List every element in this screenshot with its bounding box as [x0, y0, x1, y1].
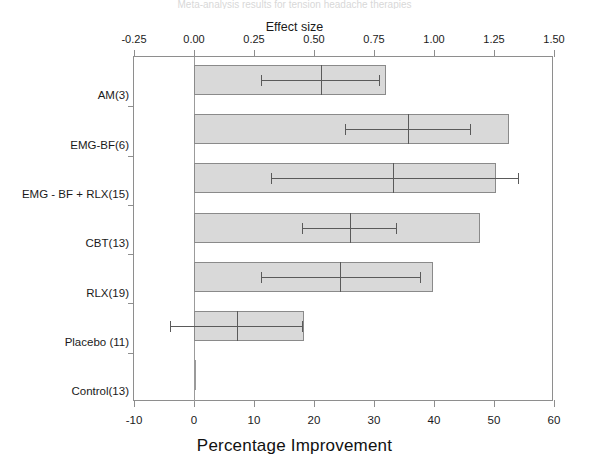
error-bar-line	[271, 178, 518, 179]
effect-size-marker	[340, 262, 341, 292]
effect-size-marker	[393, 163, 394, 193]
top-tick-label: 0.75	[363, 33, 384, 45]
top-tick-label: 1.25	[483, 33, 504, 45]
plot-area: -0.250.000.250.500.751.001.251.50 -10010…	[133, 56, 553, 401]
bottom-tick-label: 60	[548, 414, 561, 426]
error-bar-cap	[302, 321, 303, 332]
bottom-tick-mark	[374, 400, 375, 407]
top-tick-mark	[554, 50, 555, 57]
top-tick-mark	[194, 50, 195, 57]
y-tick-mark	[128, 303, 134, 304]
figure-title: Meta-analysis results for tension headac…	[0, 0, 589, 9]
bottom-tick-mark	[314, 400, 315, 407]
error-bar-cap	[170, 321, 171, 332]
top-tick-label: 0.50	[303, 33, 324, 45]
y-axis-category-label: EMG - BF + RLX(15)	[1, 188, 129, 200]
error-bar-cap	[261, 272, 262, 283]
y-axis-category-label: Placebo (11)	[1, 336, 129, 348]
top-tick-label: 1.50	[543, 33, 564, 45]
y-tick-mark	[128, 254, 134, 255]
y-tick-mark	[128, 205, 134, 206]
bottom-tick-label: -10	[126, 414, 143, 426]
error-bar-cap	[271, 173, 272, 184]
error-bar-cap	[302, 223, 303, 234]
error-bar-cap	[470, 124, 471, 135]
bottom-tick-mark	[134, 400, 135, 407]
error-bar-cap	[345, 124, 346, 135]
error-bar-line	[302, 228, 396, 229]
effect-size-marker	[237, 311, 238, 341]
error-bar-cap	[518, 173, 519, 184]
y-axis-category-label: AM(3)	[1, 89, 129, 101]
y-tick-mark	[128, 156, 134, 157]
bar	[194, 360, 196, 390]
top-tick-label: -0.25	[121, 33, 146, 45]
bottom-tick-label: 30	[368, 414, 381, 426]
top-tick-label: 0.00	[183, 33, 204, 45]
top-tick-mark	[434, 50, 435, 57]
error-bar-line	[170, 326, 302, 327]
y-axis-category-label: EMG-BF(6)	[1, 139, 129, 151]
effect-size-marker	[408, 114, 409, 144]
y-tick-mark	[128, 106, 134, 107]
y-axis-category-label: Control(13)	[1, 385, 129, 397]
error-bar-cap	[396, 223, 397, 234]
bottom-axis-title: Percentage Improvement	[0, 436, 589, 456]
y-axis-category-label: RLX(19)	[1, 287, 129, 299]
effect-size-marker	[350, 213, 351, 243]
y-tick-mark	[128, 353, 134, 354]
effect-size-marker	[321, 65, 322, 95]
top-tick-label: 0.25	[243, 33, 264, 45]
bottom-tick-mark	[554, 400, 555, 407]
top-tick-label: 1.00	[423, 33, 444, 45]
top-tick-mark	[374, 50, 375, 57]
error-bar-cap	[420, 272, 421, 283]
bottom-tick-label: 10	[248, 414, 261, 426]
top-axis-title: Effect size	[0, 20, 589, 34]
top-tick-mark	[254, 50, 255, 57]
error-bar-cap	[379, 75, 380, 86]
error-bar-line	[261, 80, 379, 81]
bottom-tick-label: 40	[428, 414, 441, 426]
bottom-tick-label: 0	[191, 414, 197, 426]
bottom-tick-mark	[254, 400, 255, 407]
top-tick-mark	[494, 50, 495, 57]
top-tick-mark	[134, 50, 135, 57]
bottom-tick-label: 20	[308, 414, 321, 426]
y-axis-category-label: CBT(13)	[1, 237, 129, 249]
error-bar-cap	[261, 75, 262, 86]
bottom-tick-mark	[434, 400, 435, 407]
top-tick-mark	[314, 50, 315, 57]
bottom-tick-label: 50	[488, 414, 501, 426]
bottom-tick-mark	[494, 400, 495, 407]
chart-figure: Meta-analysis results for tension headac…	[0, 0, 589, 473]
